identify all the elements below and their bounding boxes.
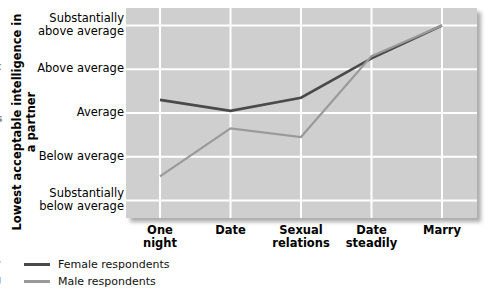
x-axis-tick-labels: One nightDateSexual relationsDate steadi… xyxy=(126,224,477,258)
y-tick-label: Above average xyxy=(26,62,124,76)
legend-item: Female respondents xyxy=(24,256,264,273)
x-tick-label: One night xyxy=(130,224,190,250)
line-swatch-icon xyxy=(24,280,50,283)
y-axis-tick-labels: Substantially above averageAbove average… xyxy=(26,0,124,240)
y-tick-label: Substantially above average xyxy=(26,12,124,39)
legend-item-label: Female respondents xyxy=(58,256,170,273)
x-tick-label: Date xyxy=(186,224,276,237)
x-tick-label: Sexual relations xyxy=(271,224,331,250)
chart-svg xyxy=(126,8,477,218)
y-tick-label: Below average xyxy=(26,150,124,164)
legend-item: Male respondents xyxy=(24,273,264,290)
x-tick-label: Date steadily xyxy=(342,224,402,250)
y-tick-label: Substantially below average xyxy=(26,187,124,214)
page-bleed-fragment-legend-1: y xyxy=(0,258,4,272)
y-tick-label: Average xyxy=(26,106,124,120)
page-bleed-fragment-legend-2: g xyxy=(0,274,4,288)
figure-root: t s y g Lowest acceptable intelligence i… xyxy=(0,0,490,302)
x-tick-label: Marry xyxy=(397,224,487,237)
chart-legend: Female respondentsMale respondents xyxy=(24,256,264,296)
line-swatch-icon xyxy=(24,263,50,266)
legend-item-label: Male respondents xyxy=(58,273,156,290)
plot-area xyxy=(126,8,477,218)
